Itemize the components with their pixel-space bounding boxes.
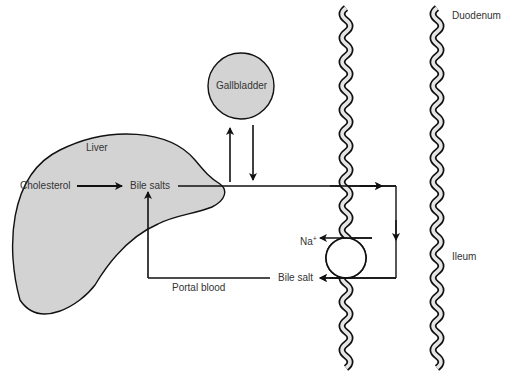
gallbladder-label: Gallbladder [216, 81, 267, 91]
intestinal-wall-right [433, 8, 441, 368]
liver-label: Liver [86, 143, 108, 153]
sodium-label: Na+ [300, 235, 317, 247]
diagram-canvas [0, 0, 513, 378]
bile-salts-label: Bile salts [130, 181, 170, 191]
ileum-label: Ileum [452, 252, 476, 262]
duodenum-label: Duodenum [452, 11, 501, 21]
intestinal-wall-left [342, 8, 350, 368]
bile-salt-label: Bile salt [278, 273, 313, 283]
cholesterol-label: Cholesterol [20, 181, 71, 191]
portal-blood-label: Portal blood [172, 283, 225, 293]
